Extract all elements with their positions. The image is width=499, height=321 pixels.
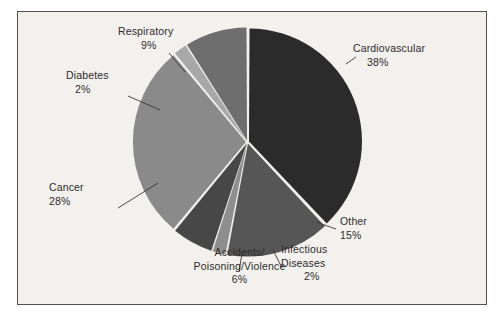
pie-label-accidents-line2: Poisoning/Violence: [170, 260, 309, 274]
pie-label-cancer-name: Cancer: [49, 181, 84, 193]
pie-label-accidents: Accidents/ Poisoning/Violence 6%: [170, 246, 309, 287]
pie-label-diabetes-name: Diabetes: [66, 69, 109, 81]
pie-label-cardiovascular: Cardiovascular 38%: [353, 42, 425, 69]
pie-slice-group: [133, 27, 362, 256]
pie-label-cancer-percent: 28%: [49, 195, 84, 209]
pie-label-diabetes-percent: 2%: [75, 83, 109, 97]
pie-label-respiratory-name: Respiratory: [118, 25, 173, 37]
pie-label-accidents-line1: Accidents/: [215, 246, 265, 258]
pie-label-cardiovascular-percent: 38%: [367, 56, 425, 70]
pie-label-other-name: Other: [340, 215, 367, 227]
pie-label-respiratory-percent: 9%: [141, 39, 173, 53]
pie-label-respiratory: Respiratory 9%: [118, 25, 173, 52]
pie-label-diabetes: Diabetes 2%: [66, 69, 109, 96]
pie-label-other: Other 15%: [340, 215, 367, 242]
pie-label-cardiovascular-name: Cardiovascular: [353, 42, 425, 54]
pie-label-other-percent: 15%: [340, 229, 367, 243]
pie-label-accidents-percent: 6%: [170, 273, 309, 287]
figure-canvas: Cardiovascular 38% Other 15% Infectious …: [0, 0, 499, 321]
pie-label-cancer: Cancer 28%: [49, 181, 84, 208]
